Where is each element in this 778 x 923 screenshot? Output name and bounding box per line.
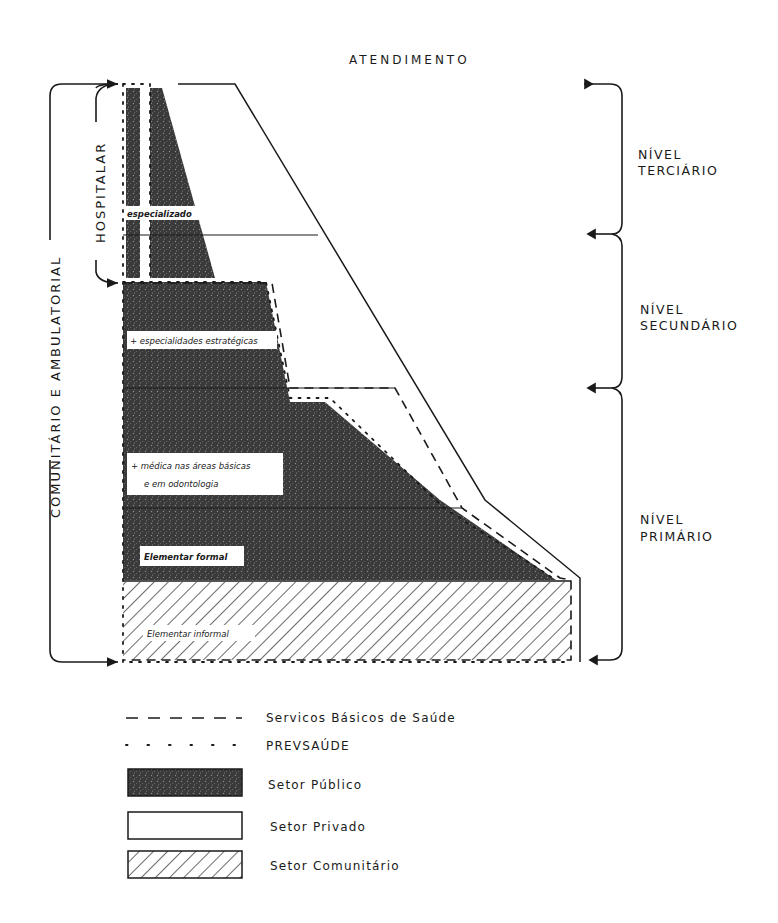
box-especialidades: + especialidades estratégicas (127, 331, 277, 349)
svg-text:e em odontologia: e em odontologia (144, 479, 218, 489)
brace-levels (584, 80, 622, 664)
community-sector-area (123, 582, 571, 660)
svg-text:NÍVEL: NÍVEL (640, 512, 684, 527)
svg-text:Setor Público: Setor Público (268, 778, 362, 792)
legend-item-setor-comunitario: Setor Comunitário (128, 851, 400, 878)
level-terciario: NÍVEL TERCIÁRIO (637, 147, 718, 178)
svg-text:+ médica nas áreas básicas: + médica nas áreas básicas (131, 461, 251, 471)
diagram-title: ATENDIMENTO (349, 53, 470, 67)
box-medica: + médica nas áreas básicas e em odontolo… (127, 453, 283, 495)
svg-text:+ especialidades estratégicas: + especialidades estratégicas (130, 336, 258, 346)
svg-text:Elementar informal: Elementar informal (147, 629, 230, 639)
box-elementar-informal: Elementar informal (143, 625, 255, 641)
box-especializado: especializado (124, 206, 202, 220)
box-elementar-formal: Elementar formal (140, 546, 244, 566)
legend-item-prevsaude: PREVSAÚDE (126, 738, 350, 753)
svg-text:PRIMÁRIO: PRIMÁRIO (640, 529, 713, 544)
svg-text:NÍVEL: NÍVEL (640, 302, 684, 317)
svg-text:PREVSAÚDE: PREVSAÚDE (266, 738, 350, 753)
svg-text:Servicos Básicos de Saúde: Servicos Básicos de Saúde (266, 711, 456, 725)
health-care-levels-diagram: ATENDIMENTO especializado + especialidad… (0, 0, 778, 923)
level-primario: NÍVEL PRIMÁRIO (640, 512, 713, 544)
svg-text:especializado: especializado (127, 209, 192, 219)
level-secundario: NÍVEL SECUNDÁRIO (640, 302, 738, 333)
legend-item-setor-publico: Setor Público (128, 769, 362, 796)
legend-item-setor-privado: Setor Privado (128, 812, 366, 839)
svg-text:Setor Comunitário: Setor Comunitário (270, 859, 400, 873)
svg-text:TERCIÁRIO: TERCIÁRIO (637, 163, 718, 178)
svg-text:SECUNDÁRIO: SECUNDÁRIO (640, 318, 738, 333)
label-comunitario-ambulatorial: COMUNITÁRIO E AMBULATORIAL (48, 256, 63, 518)
svg-text:NÍVEL: NÍVEL (638, 147, 682, 162)
legend-item-basic-health-services: Servicos Básicos de Saúde (126, 711, 456, 725)
svg-text:Elementar formal: Elementar formal (144, 552, 228, 562)
label-hospitalar: HOSPITALAR (93, 142, 108, 243)
legend: Servicos Básicos de Saúde PREVSAÚDE Seto… (126, 711, 456, 878)
svg-text:Setor Privado: Setor Privado (270, 820, 366, 834)
